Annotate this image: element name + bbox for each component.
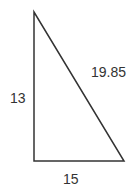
vertical-side-label: 13	[10, 90, 26, 106]
hypotenuse-label: 19.85	[91, 64, 126, 80]
horizontal-side-label: 15	[63, 171, 79, 186]
right-triangle-shape	[34, 12, 124, 161]
triangle-diagram: 13 19.85 15	[0, 0, 133, 186]
